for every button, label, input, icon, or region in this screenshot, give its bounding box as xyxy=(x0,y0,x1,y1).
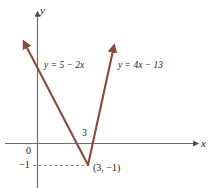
graph-figure: y x y = 5 − 2x y = 4x − 13 3 0 −1 (3, −1… xyxy=(0,0,213,188)
line-y-equals-4x-minus-13 xyxy=(88,46,114,165)
vertex-point-label: (3, −1) xyxy=(93,163,120,173)
equation-label-right: y = 4x − 13 xyxy=(118,61,163,71)
x-axis-label: x xyxy=(201,138,206,149)
x-tick-label-3: 3 xyxy=(82,128,87,138)
origin-label-0: 0 xyxy=(26,146,31,156)
y-axis-label: y xyxy=(40,5,45,16)
plot-canvas xyxy=(0,0,213,188)
equation-label-left: y = 5 − 2x xyxy=(44,61,84,71)
y-tick-label-negative-1: −1 xyxy=(19,160,30,170)
